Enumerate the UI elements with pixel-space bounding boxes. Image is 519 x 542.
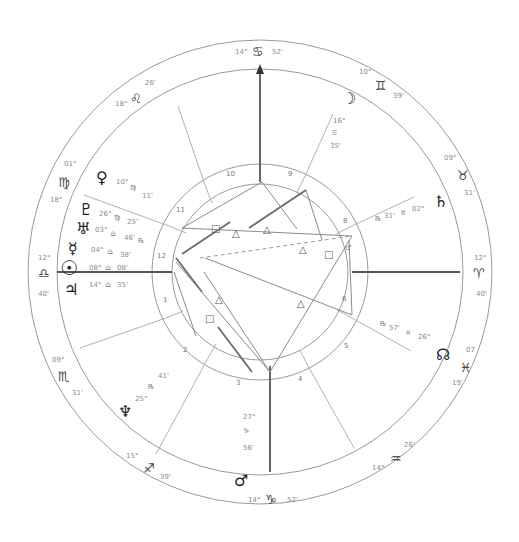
square-icon: □ bbox=[205, 313, 214, 324]
aquarius-sign-icon: ♒ bbox=[390, 451, 402, 466]
svg-text:11: 11 bbox=[176, 206, 185, 214]
svg-text:04°: 04° bbox=[91, 246, 103, 254]
aries-sign-icon: ♈ bbox=[473, 266, 485, 281]
svg-text:18°: 18° bbox=[50, 196, 62, 204]
ic-label: 14° ♑ 52' bbox=[248, 492, 298, 507]
svg-text:♉: ♉ bbox=[400, 209, 406, 217]
svg-text:♍: ♍ bbox=[130, 184, 136, 192]
asc-label: 12° ♎ 40' bbox=[38, 254, 50, 298]
svg-text:1: 1 bbox=[163, 296, 167, 304]
svg-text:38': 38' bbox=[120, 251, 131, 259]
svg-text:03°: 03° bbox=[95, 226, 107, 234]
svg-text:12°: 12° bbox=[38, 254, 50, 262]
libra-sign-icon: ♎ bbox=[38, 266, 50, 281]
svg-text:56': 56' bbox=[243, 444, 254, 452]
svg-text:14°: 14° bbox=[248, 496, 260, 504]
svg-text:40': 40' bbox=[476, 290, 487, 298]
svg-text:14°: 14° bbox=[372, 464, 384, 472]
trine-icon: △ bbox=[232, 228, 240, 239]
svg-text:♎: ♎ bbox=[105, 281, 111, 289]
svg-text:♑: ♑ bbox=[243, 427, 249, 435]
svg-text:31': 31' bbox=[384, 212, 395, 220]
planet-sun: ☉ 08° ♎ 08' bbox=[60, 256, 128, 280]
north-node-icon: ☊ bbox=[436, 345, 450, 364]
svg-text:9: 9 bbox=[288, 170, 292, 178]
svg-text:39': 39' bbox=[160, 473, 171, 481]
svg-text:35': 35' bbox=[330, 142, 341, 150]
svg-text:6: 6 bbox=[342, 295, 347, 303]
trine-icon: △ bbox=[299, 244, 307, 255]
gemini-sign-icon: ♊ bbox=[375, 78, 387, 93]
svg-text:♎: ♎ bbox=[105, 264, 111, 272]
svg-text:℞: ℞ bbox=[138, 237, 144, 245]
moon-icon: ☽ bbox=[342, 89, 356, 108]
svg-text:10°: 10° bbox=[359, 68, 371, 76]
planet-moon: ☽ 16° ♋ 35' bbox=[330, 89, 356, 150]
house-numbers: 12 1 2 3 4 5 6 8 9 10 11 ♂ bbox=[157, 170, 351, 387]
dsc-label: 12° ♈ 40' bbox=[473, 254, 487, 298]
svg-text:26': 26' bbox=[145, 79, 156, 87]
natal-chart-wheel: □ △ △ △ □ △ △ □ 12 1 2 3 4 5 6 8 9 10 11… bbox=[0, 0, 519, 542]
svg-text:02°: 02° bbox=[412, 205, 424, 213]
pluto-icon: ♇ bbox=[79, 200, 93, 219]
svg-text:♎: ♎ bbox=[110, 230, 116, 238]
svg-text:4: 4 bbox=[298, 375, 303, 383]
svg-text:10: 10 bbox=[226, 170, 235, 178]
aspect-lines bbox=[174, 182, 352, 372]
svg-text:09°: 09° bbox=[52, 356, 64, 364]
sun-icon: ☉ bbox=[60, 256, 78, 280]
uranus-icon: ♅ bbox=[76, 219, 90, 238]
planet-saturn: ♄ ℞ 31' ♉ 02° bbox=[375, 192, 448, 223]
svg-text:℞: ℞ bbox=[375, 215, 381, 223]
svg-text:25°: 25° bbox=[135, 395, 147, 403]
jupiter-icon: ♃ bbox=[64, 280, 78, 299]
svg-text:18°: 18° bbox=[115, 100, 127, 108]
planet-venus: ♀ 10° ♍ 11' bbox=[96, 168, 153, 200]
svg-text:35': 35' bbox=[117, 281, 128, 289]
saturn-icon: ♄ bbox=[434, 192, 448, 211]
square-icon: □ bbox=[211, 223, 220, 234]
svg-text:52': 52' bbox=[287, 496, 298, 504]
svg-text:01°: 01° bbox=[64, 160, 76, 168]
svg-text:5: 5 bbox=[344, 342, 348, 350]
svg-text:10°: 10° bbox=[116, 178, 128, 186]
svg-text:19': 19' bbox=[452, 379, 463, 387]
svg-text:31': 31' bbox=[72, 389, 83, 397]
sign-cusp-labels: 10° ♊ 39' 09° ♉ 31' 07 ♓ 19' 26' ♒ 14° 1… bbox=[50, 68, 475, 481]
svg-text:♎: ♎ bbox=[107, 248, 113, 256]
planet-mars: ♂ 27° ♑ 56' bbox=[234, 413, 255, 490]
svg-text:℞: ℞ bbox=[148, 383, 154, 391]
trine-icon: △ bbox=[297, 298, 305, 309]
mars-icon: ♂ bbox=[234, 471, 248, 490]
svg-text:52': 52' bbox=[272, 48, 283, 56]
house-inner-ring bbox=[172, 184, 348, 360]
svg-text:♍: ♍ bbox=[114, 214, 120, 222]
svg-text:39': 39' bbox=[393, 92, 404, 100]
svg-text:26': 26' bbox=[404, 441, 415, 449]
mc-label: 14° ♋ 52' bbox=[235, 44, 283, 59]
planet-jupiter: ♃ 14° ♎ 35' bbox=[64, 280, 128, 299]
sagittarius-sign-icon: ♐ bbox=[143, 461, 155, 476]
svg-text:♓: ♓ bbox=[405, 329, 411, 337]
svg-text:26°: 26° bbox=[418, 333, 430, 341]
leo-sign-icon: ♌ bbox=[130, 91, 142, 106]
pisces-sign-icon: ♓ bbox=[460, 360, 472, 375]
neptune-icon: ♆ bbox=[118, 402, 132, 421]
svg-text:14°: 14° bbox=[235, 48, 247, 56]
svg-text:26°: 26° bbox=[99, 210, 111, 218]
svg-text:8: 8 bbox=[343, 217, 347, 225]
virgo-sign-icon: ♍ bbox=[58, 175, 70, 190]
svg-text:41': 41' bbox=[158, 372, 169, 380]
svg-text:11': 11' bbox=[142, 192, 153, 200]
svg-text:♋: ♋ bbox=[331, 129, 337, 137]
svg-text:46': 46' bbox=[124, 234, 135, 242]
svg-text:12: 12 bbox=[157, 252, 166, 260]
svg-text:09°: 09° bbox=[444, 154, 456, 162]
svg-text:25': 25' bbox=[127, 218, 138, 226]
svg-text:14°: 14° bbox=[89, 281, 101, 289]
svg-text:27°: 27° bbox=[243, 413, 255, 421]
taurus-sign-icon: ♉ bbox=[457, 168, 469, 183]
trine-icon: △ bbox=[215, 294, 223, 305]
svg-text:℞: ℞ bbox=[380, 320, 386, 328]
capricorn-sign-icon: ♑ bbox=[265, 492, 277, 507]
